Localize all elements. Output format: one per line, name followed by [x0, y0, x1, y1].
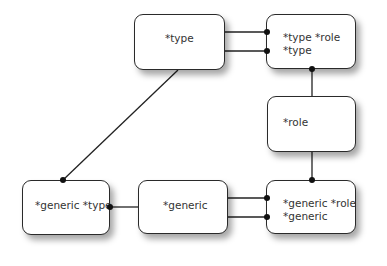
node-generic-role: *generic *role *generic [266, 180, 356, 234]
node-label-line1: *generic *role [283, 197, 356, 210]
connector-dot [264, 214, 270, 220]
connector-dot [60, 177, 66, 183]
connector-dot [264, 195, 270, 201]
node-role: *role [267, 96, 356, 152]
connector-dot [264, 29, 270, 35]
node-label: *generic *type [35, 199, 112, 212]
node-label-line2: *generic [283, 210, 328, 223]
connector-dot [309, 66, 315, 72]
node-type: *type [134, 14, 225, 70]
node-label: *generic [163, 199, 208, 212]
node-label: *type [165, 32, 194, 45]
node-label-line1: *type *role [283, 31, 340, 44]
connector-dot [107, 204, 113, 210]
connector-dot [309, 177, 315, 183]
node-label-line2: *type [283, 44, 312, 57]
diagram-canvas: *type *type *role *type *role *generic *… [0, 0, 387, 266]
connector-dot [264, 48, 270, 54]
node-generic: *generic [138, 180, 228, 234]
node-type-role: *type *role *type [266, 14, 356, 69]
node-generic-type: *generic *type [22, 180, 110, 235]
node-label: *role [283, 116, 308, 129]
edge-type-to-generic-type [63, 70, 178, 180]
